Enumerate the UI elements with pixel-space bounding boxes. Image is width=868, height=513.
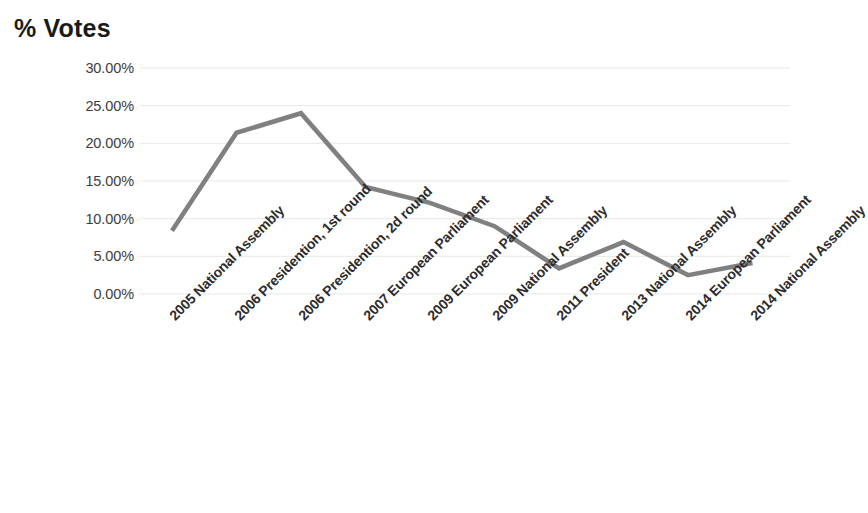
data-series-line (172, 113, 753, 275)
y-axis-tick-label: 20.00% (62, 135, 134, 151)
y-axis-tick-label: 30.00% (62, 60, 134, 76)
y-axis-tick-label: 5.00% (62, 248, 134, 264)
y-axis-tick-label: 25.00% (62, 98, 134, 114)
data-series-group (172, 113, 753, 275)
y-axis-tick-label: 10.00% (62, 211, 134, 227)
y-axis-tick-label: 0.00% (62, 286, 134, 302)
y-axis-tick-label: 15.00% (62, 173, 134, 189)
